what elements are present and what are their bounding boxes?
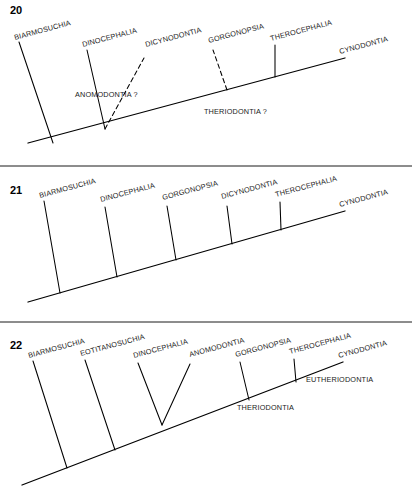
taxon-label-dicynodontia: DICYNODONTIA xyxy=(220,177,278,201)
taxon-label-dinocephalia: DINOCEPHALIA xyxy=(81,26,138,49)
branch-biarmosuchia xyxy=(33,361,67,468)
branch-gorgonopsia xyxy=(167,206,176,260)
branch-biarmosuchia xyxy=(19,42,53,143)
taxon-label-therocephalia: THEROCEPHALIA xyxy=(269,18,333,43)
taxon-label-cynodontia: CYNODONTIA xyxy=(338,187,389,209)
branch-gorgonopsia xyxy=(213,50,227,90)
clade-label-theriodontia: THERIODONTIA ? xyxy=(204,107,267,116)
backbone-20 xyxy=(28,58,345,143)
branch-biarmosuchia xyxy=(44,201,60,293)
panel-21: 21BIARMOSUCHIADINOCEPHALIAGORGONOPSIADIC… xyxy=(10,174,389,302)
panel-number-20: 20 xyxy=(10,4,22,16)
clade-label-theriodontia: THERIODONTIA xyxy=(237,403,294,412)
branch-eotitanosuchia xyxy=(85,360,115,450)
clade-label-eutheriodontia: EUTHERIODONTIA xyxy=(306,375,373,384)
panel-22: 22BIARMOSUCHIAEOTITANOSUCHIADINOCEPHALIA… xyxy=(10,331,388,485)
branch-gorgonopsia xyxy=(240,362,249,400)
clade-label-anomodontia: ANOMODONTIA ? xyxy=(75,90,138,99)
cladogram-canvas: 20BIARMOSUCHIADINOCEPHALIADICYNODONTIAGO… xyxy=(0,0,412,500)
branch-therocephalia xyxy=(280,202,281,230)
branch-dinocephalia xyxy=(105,207,117,277)
panel-20: 20BIARMOSUCHIADINOCEPHALIADICYNODONTIAGO… xyxy=(10,4,389,143)
panel-number-21: 21 xyxy=(10,184,22,196)
branch-therocephalia xyxy=(294,359,296,382)
taxon-label-dinocephalia: DINOCEPHALIA xyxy=(99,181,156,204)
panel-number-22: 22 xyxy=(10,339,22,351)
backbone-21 xyxy=(28,211,345,302)
taxon-label-cynodontia: CYNODONTIA xyxy=(338,34,389,56)
taxon-label-biarmosuchia: BIARMOSUCHIA xyxy=(13,18,72,42)
branch-dicynodontia xyxy=(227,206,232,244)
taxon-label-gorgonopsia: GORGONOPSIA xyxy=(207,21,265,44)
taxon-label-therocephalia: THEROCEPHALIA xyxy=(274,174,338,199)
taxon-label-dicynodontia: DICYNODONTIA xyxy=(144,25,202,49)
taxon-label-biarmosuchia: BIARMOSUCHIA xyxy=(38,176,97,200)
branch-anomodontia xyxy=(162,364,190,425)
taxon-label-biarmosuchia: BIARMOSUCHIA xyxy=(27,336,86,360)
cladogram-figure: 20BIARMOSUCHIADINOCEPHALIADICYNODONTIAGO… xyxy=(0,0,412,500)
branch-dinocephalia xyxy=(138,363,162,425)
taxon-label-cynodontia: CYNODONTIA xyxy=(337,338,388,360)
taxon-label-gorgonopsia: GORGONOPSIA xyxy=(161,178,219,201)
